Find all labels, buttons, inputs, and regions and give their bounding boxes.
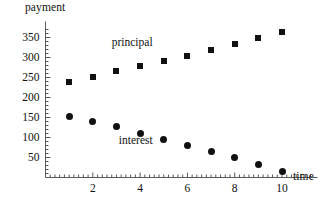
x-tick-label: 6	[179, 182, 195, 194]
y-tick-label: 150	[14, 111, 40, 123]
data-point-interest	[208, 148, 215, 155]
data-point-interest	[231, 154, 238, 161]
y-tick-label: 350	[14, 31, 40, 43]
data-point-interest	[113, 123, 120, 130]
chart-figure: payment time 50100150200250300350 246810…	[0, 0, 326, 202]
axis-lines	[0, 0, 326, 202]
x-tick-label: 10	[274, 182, 290, 194]
data-point-principal	[255, 35, 261, 41]
y-tick-label: 250	[14, 71, 40, 83]
y-tick-label: 200	[14, 91, 40, 103]
series-label-interest: interest	[119, 134, 153, 146]
y-tick-label: 300	[14, 51, 40, 63]
data-point-principal	[66, 79, 72, 85]
data-point-interest	[89, 118, 96, 125]
y-tick-label: 50	[14, 151, 40, 163]
series-label-principal: principal	[112, 36, 153, 48]
data-point-interest	[184, 142, 191, 149]
y-axis-label: payment	[25, 1, 65, 13]
data-point-interest	[255, 161, 262, 168]
data-point-principal	[279, 29, 285, 35]
data-point-interest	[279, 168, 286, 175]
x-tick-label: 8	[227, 182, 243, 194]
x-axis-label: time	[293, 170, 314, 182]
data-point-principal	[161, 58, 167, 64]
data-point-interest	[160, 136, 167, 143]
data-point-principal	[137, 63, 143, 69]
x-tick-label: 4	[132, 182, 148, 194]
data-point-principal	[184, 53, 190, 59]
data-point-principal	[113, 68, 119, 74]
data-point-principal	[232, 41, 238, 47]
x-tick-label: 2	[85, 182, 101, 194]
plot-area: payment time 50100150200250300350 246810…	[0, 0, 326, 202]
data-point-principal	[208, 47, 214, 53]
y-tick-label: 100	[14, 131, 40, 143]
data-point-interest	[66, 113, 73, 120]
data-point-principal	[90, 74, 96, 80]
